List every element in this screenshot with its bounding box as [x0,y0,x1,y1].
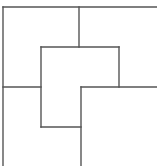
diagram-lines [3,7,157,166]
diagram-canvas [0,0,157,166]
